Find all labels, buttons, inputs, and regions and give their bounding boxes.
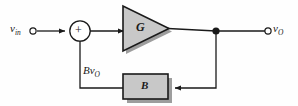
amplifier-gain-label: G: [136, 21, 145, 33]
feedback-block-label: B: [141, 80, 148, 91]
feedback-signal-label: BvO: [83, 65, 100, 79]
block-diagram-canvas: vin + G vO BvO B: [0, 0, 298, 106]
output-terminal-circle: [265, 28, 271, 34]
wire-node-to-feedback-block: [175, 31, 216, 88]
diagram-svg: [0, 0, 298, 106]
wire-amplifier-to-node: [168, 29, 216, 32]
amplifier-triangle: [123, 6, 169, 51]
output-signal-label: vO: [273, 23, 283, 37]
input-terminal-circle: [30, 28, 36, 34]
input-signal-label: vin: [10, 23, 21, 37]
summing-junction-sign: +: [75, 24, 82, 36]
